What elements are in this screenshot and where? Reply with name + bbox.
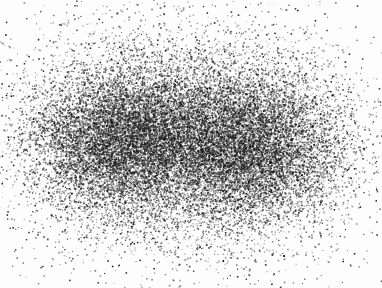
scan-artifact-right-icon [314, 1, 324, 6]
scan-artifact-left-icon [266, 1, 277, 7]
scatter-plot-figure: Dense bimodal two-dimensional point clou… [0, 0, 382, 288]
scatter-point-cloud [0, 0, 382, 288]
